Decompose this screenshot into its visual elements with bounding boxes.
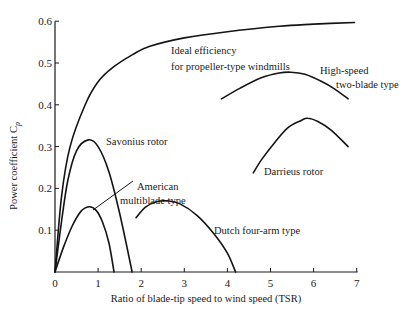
- y-tick-label: 0.2: [38, 182, 52, 194]
- curves: [55, 23, 355, 273]
- y-tick-label: 0.5: [38, 57, 52, 69]
- y-tick-label: 0.6: [38, 15, 52, 27]
- high-speed-two-blade-curve: [221, 72, 348, 99]
- label-high-speed-two-blade: High-speed: [320, 65, 369, 76]
- chart-container: 012345670.10.20.30.40.50.6 Ideal efficie…: [0, 0, 416, 317]
- y-axis-title: Power coefficient Cp: [8, 122, 22, 210]
- label-american-multiblade: American: [137, 181, 179, 192]
- x-axis-title: Ratio of blade-tip speed to wind speed (…: [111, 293, 302, 305]
- x-tick-label: 2: [138, 277, 144, 289]
- ideal-efficiency-curve: [55, 23, 355, 273]
- dutch-four-arm-curve: [136, 201, 236, 272]
- label-high-speed-two-blade: two-blade type: [336, 79, 399, 90]
- annotations: Ideal efficiencyfor propeller-type windm…: [93, 45, 399, 236]
- y-axis-title-subscript: p: [13, 122, 22, 127]
- y-tick-label: 0.4: [38, 99, 52, 111]
- y-axis-title-group: Power coefficient Cp: [8, 122, 22, 210]
- y-axis-title-main: Power coefficient C: [8, 126, 19, 210]
- x-tick-label: 5: [268, 277, 274, 289]
- label-american-multiblade: multiblade type: [120, 195, 186, 206]
- x-tick-label: 6: [311, 277, 317, 289]
- x-tick-label: 1: [95, 277, 101, 289]
- x-tick-label: 7: [354, 277, 360, 289]
- american-multiblade-curve: [55, 207, 114, 272]
- label-dutch-four-arm: Dutch four-arm type: [214, 225, 300, 236]
- power-coefficient-chart: 012345670.10.20.30.40.50.6 Ideal efficie…: [0, 0, 416, 317]
- x-tick-label: 4: [225, 277, 231, 289]
- label-darrieus-rotor: Darrieus rotor: [264, 166, 324, 177]
- label-ideal-efficiency: Ideal efficiency: [171, 45, 237, 56]
- y-tick-label: 0.3: [38, 141, 52, 153]
- y-tick-label: 0.1: [38, 224, 52, 236]
- x-tick-label: 0: [52, 277, 58, 289]
- label-savonius-rotor: Savonius rotor: [106, 136, 168, 147]
- label-ideal-efficiency: for propeller-type windmills: [171, 61, 290, 72]
- darrieus-rotor-curve: [253, 118, 348, 173]
- x-tick-label: 3: [182, 277, 188, 289]
- axes: 012345670.10.20.30.40.50.6: [38, 15, 360, 289]
